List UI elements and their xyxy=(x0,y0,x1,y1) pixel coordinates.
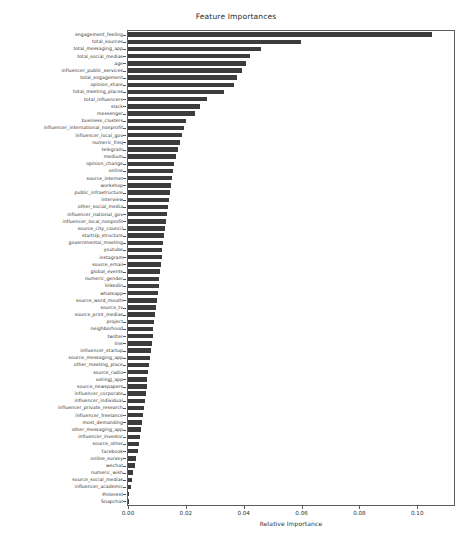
y-axis-tick-mark xyxy=(123,501,126,502)
y-axis-tick-label: medium xyxy=(104,154,123,159)
x-axis-tick-label: 0.02 xyxy=(180,510,192,516)
y-axis-tick-label: twitter xyxy=(107,334,123,339)
y-axis-tick-mark xyxy=(123,315,126,316)
y-axis-tick-label: source_print_medias xyxy=(75,312,123,317)
y-axis-tick-label: startUp_structure xyxy=(82,233,123,238)
x-axis-tick-mark xyxy=(359,506,360,509)
bar xyxy=(128,470,133,474)
y-axis-tick-label: total_sources xyxy=(92,39,123,44)
y-axis-tick-label: influencer_local_gov xyxy=(75,133,123,138)
y-axis-tick-label: numeric_wish xyxy=(91,470,123,475)
y-axis-tick-mark xyxy=(123,200,126,201)
y-axis-tick-mark xyxy=(123,99,126,100)
bar xyxy=(128,190,170,194)
y-axis-tick-label: other_meeting_place xyxy=(74,362,123,367)
bar xyxy=(128,478,132,482)
y-axis-tick-label: source_newspapers xyxy=(77,384,123,389)
bar xyxy=(128,226,165,230)
bar xyxy=(128,277,159,281)
bar xyxy=(128,147,178,151)
x-axis-tick-label: 0.10 xyxy=(411,510,423,516)
y-axis-tick-mark xyxy=(123,243,126,244)
y-axis-tick-mark xyxy=(123,466,126,467)
y-axis-tick-mark xyxy=(123,430,126,431)
bar xyxy=(128,54,250,58)
y-axis-tick-mark xyxy=(123,343,126,344)
y-axis-tick-mark xyxy=(123,480,126,481)
y-axis-tick-mark xyxy=(123,358,126,359)
y-axis-tick-mark xyxy=(123,35,126,36)
y-axis-tick-mark xyxy=(123,329,126,330)
bar xyxy=(128,370,148,374)
bar xyxy=(128,377,147,381)
bar xyxy=(128,32,432,36)
y-axis-tick-mark xyxy=(123,286,126,287)
y-axis-tick-label: workshop xyxy=(100,183,123,188)
y-axis-tick-label: influencer_startup xyxy=(80,348,123,353)
bar xyxy=(128,269,160,273)
x-axis-tick-mark xyxy=(244,506,245,509)
bar xyxy=(128,384,147,388)
y-axis-tick-mark xyxy=(123,157,126,158)
bar xyxy=(128,205,168,209)
bar xyxy=(128,284,159,288)
y-axis-tick-label: online_survey xyxy=(91,456,123,461)
bar xyxy=(128,305,156,309)
bar xyxy=(128,341,152,345)
y-axis-tick-label: source_radio xyxy=(93,370,123,375)
y-axis-tick-mark xyxy=(123,257,126,258)
y-axis-tick-label: source_word_mouth xyxy=(76,298,123,303)
y-axis-tick-mark xyxy=(123,394,126,395)
x-axis-tick-label: 0.04 xyxy=(237,510,249,516)
y-axis-tick-mark xyxy=(123,114,126,115)
y-axis-tick-mark xyxy=(123,372,126,373)
y-axis-tick-mark xyxy=(123,229,126,230)
bar xyxy=(128,456,136,460)
bar xyxy=(128,399,145,403)
bar xyxy=(128,435,140,439)
y-axis-tick-label: most_demanding xyxy=(83,420,123,425)
y-axis-tick-mark xyxy=(123,336,126,337)
y-axis-tick-mark xyxy=(123,150,126,151)
y-axis-tick-mark xyxy=(123,300,126,301)
bar xyxy=(128,212,167,216)
bar xyxy=(128,492,129,496)
bar xyxy=(128,442,139,446)
y-axis-tick-label: influencer_corporate xyxy=(74,391,123,396)
y-axis-tick-mark xyxy=(123,236,126,237)
x-axis-tick-mark xyxy=(186,506,187,509)
chart-title: Feature Importances xyxy=(0,12,472,21)
y-axis-tick-mark xyxy=(123,78,126,79)
bar xyxy=(128,463,135,467)
bar xyxy=(128,61,246,65)
bar xyxy=(128,176,172,180)
y-axis-tick-mark xyxy=(123,422,126,423)
y-axis-tick-label: source_messaging_app xyxy=(69,355,123,360)
y-axis-tick-mark xyxy=(123,322,126,323)
bar xyxy=(128,47,261,51)
y-axis-tick-mark xyxy=(123,365,126,366)
y-axis-tick-mark xyxy=(123,401,126,402)
y-axis-tick-mark xyxy=(123,221,126,222)
y-axis-tick-mark xyxy=(123,142,126,143)
y-axis-tick-mark xyxy=(123,279,126,280)
y-axis-tick-label: whatsapp xyxy=(100,291,123,296)
y-axis-tick-mark xyxy=(123,293,126,294)
y-axis-tick-label: votingJ_app xyxy=(96,377,123,382)
bar xyxy=(128,198,169,202)
y-axis-tick-mark xyxy=(123,451,126,452)
y-axis-tick-mark xyxy=(123,178,126,179)
y-axis-tick-label: linkedin xyxy=(105,283,123,288)
y-axis-tick-label: line xyxy=(115,341,124,346)
y-axis-tick-mark xyxy=(123,415,126,416)
y-axis-tick-label: project xyxy=(107,319,123,324)
y-axis-tick-label: interview xyxy=(101,197,123,202)
bar xyxy=(128,119,186,123)
y-axis-tick-mark xyxy=(123,272,126,273)
y-axis-tick-label: influencer_private_research xyxy=(58,405,123,410)
y-axis-tick-mark xyxy=(123,135,126,136)
y-axis-tick-mark xyxy=(123,121,126,122)
y-axis-tick-label: messenger xyxy=(97,111,123,116)
y-axis-tick-label: source_tv xyxy=(100,305,123,310)
x-axis-tick-mark xyxy=(417,506,418,509)
